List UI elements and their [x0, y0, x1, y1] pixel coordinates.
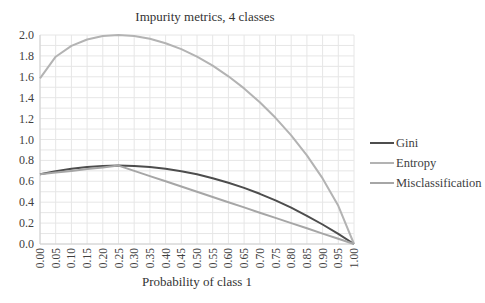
y-tick-label: 0.2: [19, 216, 34, 230]
x-tick-label: 0.95: [332, 248, 344, 268]
y-tick-label: 0.4: [19, 195, 34, 209]
x-tick-label: 0.55: [207, 248, 219, 268]
x-tick-label: 0.85: [301, 248, 313, 268]
legend-swatch-misclassification: [370, 182, 394, 184]
legend-item-misclassification: Misclassification: [370, 173, 481, 193]
y-tick-label: 1.6: [19, 70, 34, 84]
legend-item-gini: Gini: [370, 133, 481, 153]
x-tick-label: 0.65: [238, 248, 250, 268]
legend-label: Misclassification: [396, 176, 481, 191]
x-tick-label: 0.75: [270, 248, 282, 268]
x-tick-label: 0.60: [222, 248, 234, 268]
y-tick-label: 0.8: [19, 153, 34, 167]
x-tick-label: 0.25: [113, 248, 125, 268]
x-tick-label: 0.15: [81, 248, 93, 268]
y-tick-label: 1.2: [19, 112, 34, 126]
chart-title: Impurity metrics, 4 classes: [105, 9, 305, 25]
x-tick-label: 0.80: [285, 248, 297, 268]
x-tick-label: 0.00: [34, 248, 46, 268]
y-tick-label: 0.0: [19, 237, 34, 251]
legend-label: Gini: [396, 136, 418, 151]
y-tick-label: 2.0: [19, 28, 34, 42]
x-tick-label: 0.30: [128, 248, 140, 268]
x-tick-label: 0.70: [254, 248, 266, 268]
legend-item-entropy: Entropy: [370, 153, 481, 173]
legend-label: Entropy: [396, 156, 436, 171]
legend: Gini Entropy Misclassification: [370, 133, 481, 193]
y-tick-label: 0.6: [19, 174, 34, 188]
x-tick-label: 0.40: [160, 248, 172, 268]
x-tick-label: 0.20: [97, 248, 109, 268]
legend-swatch-gini: [370, 142, 394, 144]
y-tick-label: 1.0: [19, 133, 34, 147]
legend-swatch-entropy: [370, 162, 394, 164]
x-tick-label: 1.00: [348, 248, 360, 268]
x-tick-label: 0.05: [50, 248, 62, 268]
x-tick-label: 0.45: [175, 248, 187, 268]
y-tick-label: 1.4: [19, 91, 34, 105]
x-axis-title: Probability of class 1: [97, 274, 297, 290]
x-tick-label: 0.90: [317, 248, 329, 268]
y-tick-label: 1.8: [19, 49, 34, 63]
x-tick-label: 0.35: [144, 248, 156, 268]
x-tick-label: 0.10: [65, 248, 77, 268]
x-tick-label: 0.50: [191, 248, 203, 268]
chart: Impurity metrics, 4 classes 0.00.20.40.6…: [0, 0, 485, 303]
